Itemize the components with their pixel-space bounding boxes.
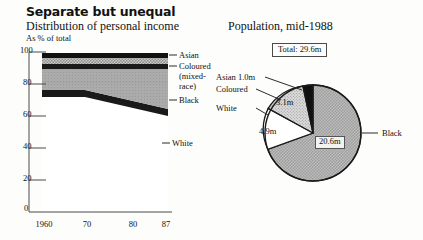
pie-callout-black: Black: [382, 129, 402, 138]
area-band-coloured-rule: [42, 64, 168, 69]
legend-label-race: race): [179, 82, 196, 92]
area-band-asian: [42, 53, 168, 58]
y-tick-label-80: 80: [23, 78, 32, 87]
legend-label-white: White: [172, 139, 193, 149]
pie-value-coloured: 3.1m: [276, 98, 293, 107]
pie-value-white: 4.9m: [259, 127, 276, 136]
y-tick-label-100: 100: [20, 46, 33, 55]
legend-label-black: Black: [179, 96, 199, 106]
legend-label-asian: Asian: [179, 51, 199, 61]
pie-callout-white: White: [216, 104, 237, 113]
x-tick-label-80: 80: [124, 220, 142, 229]
area-chart: [0, 0, 212, 240]
pie-callout-asian: Asian 1.0m: [216, 73, 255, 82]
y-tick-label-40: 40: [23, 142, 32, 151]
x-tick-label-1960: 1960: [31, 220, 57, 229]
x-tick-label-87: 87: [157, 220, 175, 229]
y-tick-label-0: 0: [24, 204, 28, 213]
pie-value-black: 20.6m: [315, 136, 345, 149]
figure-root: Separate but unequal Distribution of per…: [0, 0, 423, 240]
area-band-white: [42, 97, 168, 212]
area-band-coloured: [42, 58, 168, 64]
callout-line-asian: [265, 77, 302, 90]
x-tick-label-70: 70: [78, 220, 96, 229]
pie-callout-coloured: Coloured: [216, 85, 248, 94]
y-tick-label-60: 60: [23, 110, 32, 119]
y-tick-label-20: 20: [23, 174, 32, 183]
